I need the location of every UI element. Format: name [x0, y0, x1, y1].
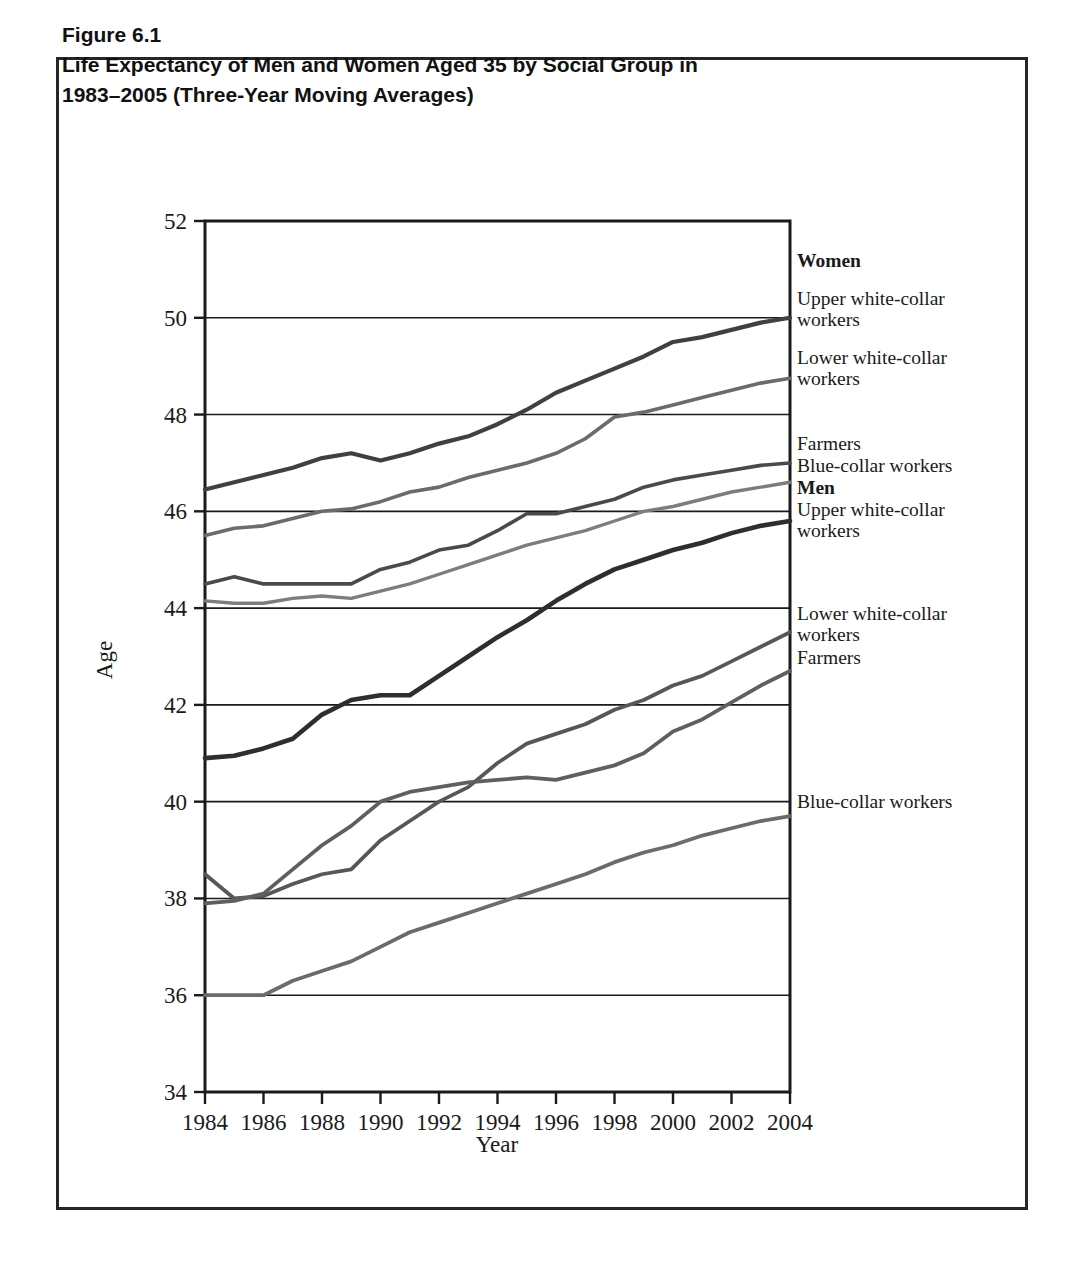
x-tick-label: 1996 — [533, 1110, 579, 1135]
y-tick-label: 46 — [164, 499, 187, 524]
series-line — [205, 816, 790, 995]
x-tick-label: 2004 — [767, 1110, 814, 1135]
legend-label-men-upper-white-collar: Upper white-collar workers — [797, 499, 945, 541]
y-tick-label: 40 — [164, 790, 187, 815]
legend-label-women-lower-white-collar: Lower white-collar workers — [797, 347, 947, 389]
plot-border — [205, 221, 790, 1092]
legend-label-men-lower-white-collar: Lower white-collar workers — [797, 603, 947, 645]
x-tick-label: 1988 — [299, 1110, 345, 1135]
x-axis-ticks: 1984198619881990199219941996199820002002… — [182, 1092, 814, 1135]
x-tick-label: 1984 — [182, 1110, 229, 1135]
series-lines — [205, 318, 790, 995]
legend-label-men-blue-collar: Blue-collar workers — [797, 791, 952, 812]
y-tick-label: 38 — [164, 886, 187, 911]
legend-label-women-blue-collar: Blue-collar workers — [797, 455, 952, 476]
x-tick-label: 2002 — [709, 1110, 755, 1135]
legend-label-women-upper-white-collar: Upper white-collar workers — [797, 288, 945, 330]
y-tick-label: 44 — [164, 596, 188, 621]
legend-header-women: Women — [797, 250, 861, 271]
y-tick-label: 52 — [164, 209, 187, 234]
x-tick-label: 1990 — [358, 1110, 404, 1135]
x-tick-label: 1998 — [592, 1110, 638, 1135]
series-line — [205, 463, 790, 584]
series-line — [205, 318, 790, 490]
x-tick-label: 2000 — [650, 1110, 696, 1135]
series-line — [205, 632, 790, 898]
y-tick-label: 50 — [164, 306, 187, 331]
series-line — [205, 671, 790, 903]
y-tick-label: 36 — [164, 983, 187, 1008]
x-axis-title: Year — [476, 1132, 519, 1157]
y-tick-label: 48 — [164, 403, 187, 428]
x-tick-label: 1986 — [241, 1110, 287, 1135]
legend-header-men: Men — [797, 477, 835, 498]
x-tick-label: 1992 — [416, 1110, 462, 1135]
y-tick-label: 42 — [164, 693, 187, 718]
y-axis-title: Age — [92, 641, 117, 679]
y-axis-ticks: 34363840424446485052 — [164, 209, 205, 1105]
y-tick-label: 34 — [164, 1080, 188, 1105]
legend-label-men-farmers: Farmers — [797, 647, 861, 668]
legend-label-women-farmers: Farmers — [797, 433, 861, 454]
gridlines — [205, 318, 790, 995]
